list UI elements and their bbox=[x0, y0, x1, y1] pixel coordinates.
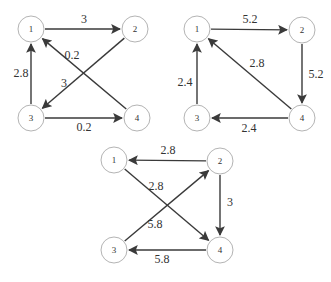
edge-weight-label: 2.8 bbox=[14, 66, 29, 80]
edge-4-to-1: 2.8 bbox=[208, 39, 291, 109]
node-4: 4 bbox=[207, 237, 233, 263]
node-label: 3 bbox=[29, 113, 34, 123]
edge-weight-label: 3 bbox=[81, 12, 87, 26]
node-label: 2 bbox=[133, 24, 138, 34]
node-label: 4 bbox=[135, 113, 140, 123]
graph-top-right: 5.25.22.82.42.41234 bbox=[178, 12, 324, 135]
node-label: 4 bbox=[218, 245, 223, 255]
node-2: 2 bbox=[289, 17, 315, 43]
node-label: 1 bbox=[112, 155, 117, 165]
edge-1-to-2: 5.2 bbox=[211, 12, 287, 30]
edge-weight-label: 5.2 bbox=[309, 67, 324, 81]
node-2: 2 bbox=[122, 16, 148, 42]
node-1: 1 bbox=[101, 147, 127, 173]
node-label: 3 bbox=[112, 245, 117, 255]
node-3: 3 bbox=[18, 105, 44, 131]
arrow-line bbox=[129, 160, 206, 161]
edge-weight-label: 2.8 bbox=[250, 56, 265, 70]
arrow-line bbox=[211, 29, 287, 30]
node-label: 2 bbox=[218, 156, 223, 166]
edge-weight-label: 2.4 bbox=[178, 75, 193, 89]
node-label: 4 bbox=[300, 113, 305, 123]
edge-weight-label: 3 bbox=[61, 76, 67, 90]
node-4: 4 bbox=[289, 105, 315, 131]
node-label: 3 bbox=[195, 113, 200, 123]
edge-3-to-1: 2.8 bbox=[14, 44, 32, 104]
edge-2-to-4: 3 bbox=[220, 175, 233, 235]
edge-2-to-1: 2.8 bbox=[129, 143, 206, 161]
graph-diagrams: 330.22.80.212345.25.22.82.42.412342.82.8… bbox=[0, 0, 331, 282]
edge-4-to-3: 5.8 bbox=[129, 250, 206, 266]
edge-weight-label: 5.8 bbox=[148, 217, 163, 231]
node-3: 3 bbox=[101, 237, 127, 263]
edge-weight-label: 0.2 bbox=[77, 120, 92, 134]
edge-2-to-4: 5.2 bbox=[302, 44, 324, 103]
edge-weight-label: 3 bbox=[227, 195, 233, 209]
edge-weight-label: 2.4 bbox=[242, 121, 257, 135]
edge-3-to-1: 2.4 bbox=[178, 44, 198, 104]
node-1: 1 bbox=[184, 16, 210, 42]
edge-3-to-4: 0.2 bbox=[45, 118, 122, 134]
edge-weight-label: 5.2 bbox=[243, 12, 258, 26]
edge-4-to-1: 0.2 bbox=[42, 39, 126, 109]
arrow-line bbox=[208, 39, 291, 109]
edge-weight-label: 5.8 bbox=[155, 252, 170, 266]
arrow-line bbox=[42, 39, 126, 109]
edge-1-to-2: 3 bbox=[45, 12, 120, 29]
edge-weight-label: 2.8 bbox=[161, 143, 176, 157]
graph-bottom: 2.82.85.835.81234 bbox=[101, 143, 233, 266]
node-label: 2 bbox=[300, 25, 305, 35]
node-3: 3 bbox=[184, 105, 210, 131]
node-4: 4 bbox=[124, 105, 150, 131]
node-2: 2 bbox=[207, 148, 233, 174]
edge-weight-label: 2.8 bbox=[149, 179, 164, 193]
edge-4-to-3: 2.4 bbox=[212, 118, 288, 135]
edge-weight-label: 0.2 bbox=[65, 48, 80, 62]
graph-top-left: 330.22.80.21234 bbox=[14, 12, 151, 134]
node-1: 1 bbox=[18, 16, 44, 42]
node-label: 1 bbox=[195, 24, 200, 34]
node-label: 1 bbox=[29, 24, 34, 34]
